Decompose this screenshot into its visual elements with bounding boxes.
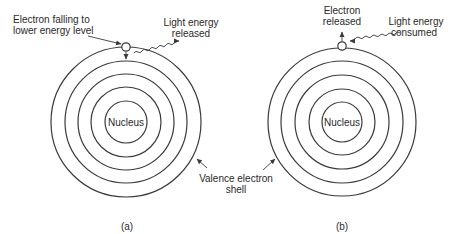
- light-consumed-label-2: consumed: [391, 27, 437, 38]
- light-released-label-2: released: [172, 28, 210, 39]
- electron-pointer-arrow-a: [88, 36, 121, 44]
- electron-icon-b: [338, 42, 346, 50]
- electron-falling-label-1: Electron falling to: [13, 14, 90, 25]
- nucleus-label-a: Nucleus: [108, 117, 144, 128]
- caption-a: (a): [121, 221, 133, 232]
- light-consumed-label-1: Light energy: [388, 16, 443, 27]
- valence-label-1: Valence electron: [199, 173, 273, 184]
- light-released-label-1: Light energy: [163, 17, 218, 28]
- electron-icon-a: [122, 43, 130, 51]
- atom-diagram: Nucleus Electron falling to lower energy…: [0, 0, 458, 234]
- electron-released-label-1: Electron: [324, 5, 361, 16]
- valence-pointer-arrow-a: [197, 159, 207, 168]
- valence-shell-callout: Valence electron shell: [197, 159, 275, 195]
- panel-b: Nucleus Electron released Light energy c…: [268, 5, 444, 232]
- electron-released-label-2: released: [323, 16, 361, 27]
- electron-falling-label-2: lower energy level: [13, 25, 94, 36]
- light-released-wave-icon: [134, 41, 179, 53]
- nucleus-label-b: Nucleus: [324, 117, 360, 128]
- caption-b: (b): [336, 221, 348, 232]
- valence-pointer-arrow-b: [263, 159, 275, 170]
- panel-a: Nucleus Electron falling to lower energy…: [13, 14, 219, 232]
- valence-label-2: shell: [226, 184, 247, 195]
